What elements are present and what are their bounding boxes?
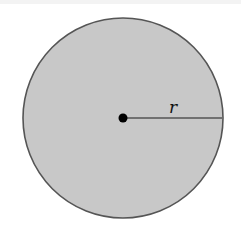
radius-label: r [169, 97, 178, 117]
center-point [119, 114, 128, 123]
circle-diagram: r [0, 0, 241, 236]
